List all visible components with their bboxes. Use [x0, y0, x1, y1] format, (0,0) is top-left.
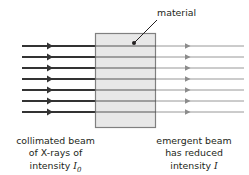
arrowhead-icon — [47, 54, 53, 61]
material-label: material — [157, 7, 196, 18]
arrowhead-icon — [47, 65, 53, 72]
collimated-beam-caption: collimated beam of X-rays of intensity I… — [4, 135, 107, 175]
emergent-beam-line — [156, 43, 244, 49]
incident-beam-line — [22, 54, 95, 61]
caption-right-line-3: intensity I — [144, 160, 244, 175]
arrowhead-icon — [47, 43, 53, 50]
incident-beam-line — [22, 65, 95, 72]
arrowhead-icon — [185, 98, 191, 104]
emergent-beam-line — [156, 98, 244, 104]
incident-beam-line — [22, 76, 95, 83]
arrowhead-icon — [185, 54, 191, 60]
arrowhead-icon — [185, 109, 191, 115]
intensity-symbol-I0: I0 — [73, 160, 81, 171]
caption-left-line-1: collimated beam — [4, 135, 107, 147]
intensity-symbol-subscript: 0 — [77, 166, 81, 174]
arrowhead-icon — [185, 43, 191, 49]
emergent-beam-group — [156, 43, 244, 115]
intensity-symbol-I: I — [214, 160, 218, 171]
xray-attenuation-diagram: material collimated beam of X-rays of in… — [0, 0, 249, 175]
emergent-beam-line — [156, 109, 244, 115]
arrowhead-icon — [47, 98, 53, 105]
arrowhead-icon — [47, 76, 53, 83]
emergent-beam-line — [156, 65, 244, 71]
caption-left-line-2: of X-rays of — [4, 147, 107, 159]
caption-right-line-1: emergent beam — [144, 135, 244, 147]
arrowhead-icon — [47, 87, 53, 94]
caption-right-line-3-text: intensity — [170, 160, 214, 171]
arrowhead-icon — [47, 109, 53, 116]
arrowhead-icon — [185, 76, 191, 82]
caption-right-line-2: has reduced — [144, 147, 244, 159]
arrowhead-icon — [185, 87, 191, 93]
incident-beam-line — [22, 87, 95, 94]
emergent-beam-line — [156, 76, 244, 82]
emergent-beam-line — [156, 87, 244, 93]
emergent-beam-line — [156, 54, 244, 60]
intensity-symbol-letter: I — [214, 160, 218, 171]
caption-left-line-3-text: intensity — [30, 160, 74, 171]
caption-left-line-3: intensity I0 — [4, 160, 107, 175]
incident-beam-line — [22, 109, 95, 116]
material-rectangle — [96, 34, 156, 128]
incident-beam-line — [22, 43, 95, 50]
incident-beam-line — [22, 98, 95, 105]
incident-beam-group — [22, 43, 95, 116]
emergent-beam-caption: emergent beam has reduced intensity I — [144, 135, 244, 175]
leader-dot-icon — [132, 41, 136, 45]
arrowhead-icon — [185, 65, 191, 71]
